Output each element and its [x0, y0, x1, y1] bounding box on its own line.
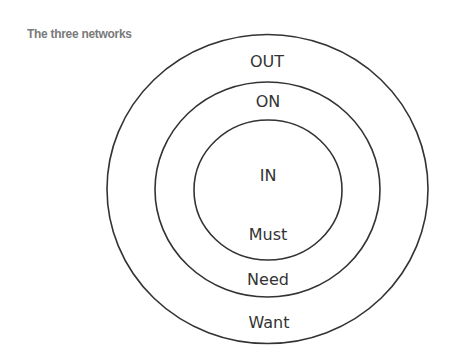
label-on: ON — [256, 92, 281, 111]
label-out: OUT — [250, 52, 284, 71]
label-must: Must — [249, 225, 288, 244]
three-networks-diagram: OUT ON IN Must Need Want — [0, 0, 451, 359]
label-need: Need — [247, 270, 289, 289]
label-want: Want — [248, 313, 289, 332]
middle-ring — [155, 82, 380, 297]
label-in: IN — [260, 166, 277, 185]
